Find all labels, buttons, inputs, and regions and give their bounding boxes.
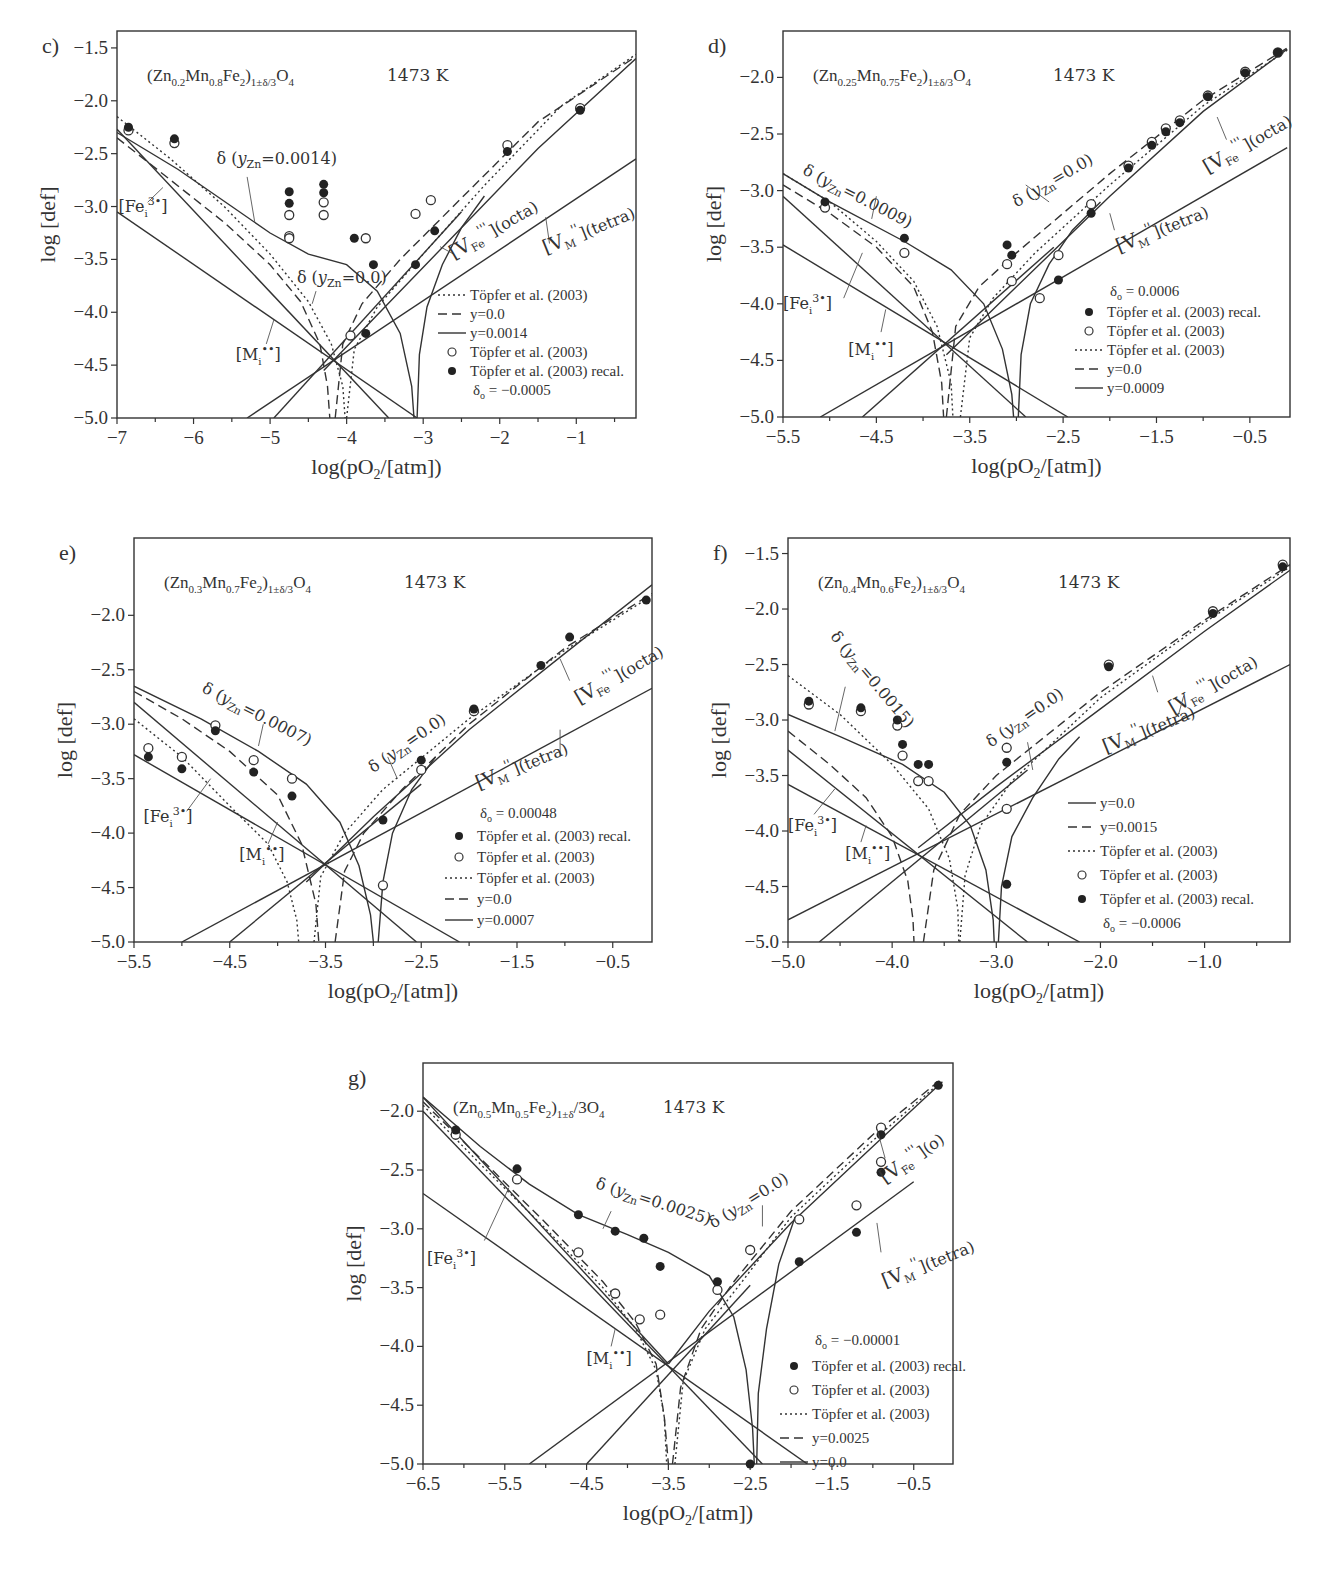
filled-marker (656, 1262, 665, 1271)
y-tick-label: −5.0 (745, 931, 779, 952)
filled-marker (852, 1228, 861, 1237)
x-tick-label: −4 (337, 427, 358, 448)
open-marker (1087, 200, 1096, 209)
legend-label: Töpfer et al. (2003) (1107, 342, 1224, 359)
legend-open-marker (790, 1386, 798, 1394)
y-tick-label: −3.0 (740, 180, 774, 201)
x-axis-title: log(pO2/[atm]) (311, 454, 441, 482)
x-tick-label: −1.5 (500, 951, 534, 972)
filled-marker (934, 1081, 943, 1090)
x-tick-label: −0.5 (897, 1473, 931, 1494)
x-axis-title: log(pO2/[atm]) (623, 1500, 753, 1528)
y-tick-label: −3.0 (380, 1218, 414, 1239)
x-tick-label: −2.5 (733, 1473, 767, 1494)
x-tick-label: −3.0 (979, 951, 1013, 972)
annotation-label: [VFe'''](octa) (569, 638, 668, 711)
y-tick-label: −3.5 (91, 768, 125, 789)
series-line (998, 737, 1079, 942)
legend-label: y=0.0 (812, 1454, 847, 1470)
legend-filled-marker (790, 1362, 798, 1370)
open-marker (285, 210, 294, 219)
y-tick-label: −5.0 (380, 1453, 414, 1474)
annotation-label: [VFe'''](octa) (1198, 107, 1297, 180)
annotation-label: [Fei3•] (783, 292, 832, 316)
x-tick-label: −3.5 (651, 1473, 685, 1494)
legend-label: Töpfer et al. (2003) (477, 870, 594, 887)
figure-canvas: −7−6−5−4−3−2−1−5.0−4.5−4.0−3.5−3.0−2.5−2… (0, 0, 1323, 1575)
annotation-label: δ (yZn=0.0007) (198, 678, 315, 752)
annotation-arrow (484, 1188, 509, 1241)
filled-marker (1002, 758, 1011, 767)
filled-marker (177, 764, 186, 773)
annotation-arrow (814, 789, 835, 815)
temperature-label: 1473 K (404, 572, 466, 592)
x-tick-label: −5.5 (488, 1473, 522, 1494)
filled-marker (1002, 880, 1011, 889)
annotation-label: [VM''](tetra) (1098, 698, 1199, 760)
filled-marker (642, 596, 651, 605)
annotation-label: [Mi••] (587, 1347, 632, 1371)
open-marker (287, 774, 296, 783)
delta0-label: δo = −0.0006 (1103, 915, 1181, 934)
y-tick-label: −4.5 (74, 354, 108, 375)
series-line (324, 59, 636, 371)
legend: Töpfer et al. (2003)y=0.0y=0.0014Töpfer … (438, 287, 624, 401)
open-marker (513, 1175, 522, 1184)
filled-marker (1003, 240, 1012, 249)
chart-panel-f: −5.0−4.0−3.0−2.0−1.0−5.0−4.5−4.0−3.5−3.0… (706, 538, 1290, 1006)
annotation-label: δ (yZn=0.0009) (798, 160, 915, 234)
y-tick-label: −5.0 (91, 931, 125, 952)
chart-panel-e: −5.5−4.5−3.5−2.5−1.5−0.5−5.0−4.5−4.0−3.5… (52, 538, 668, 1006)
filled-marker (144, 752, 153, 761)
y-tick-label: −1.5 (745, 543, 779, 564)
annotation-label: [VM''](tetra) (878, 1232, 979, 1294)
y-tick-label: −4.5 (91, 877, 125, 898)
legend-label: y=0.0 (1107, 361, 1142, 377)
x-tick-label: −2.0 (1083, 951, 1117, 972)
open-marker (611, 1289, 620, 1298)
legend-label: y=0.0009 (1107, 380, 1164, 396)
annotation-label: [Fei3•] (427, 1247, 476, 1271)
annotation-arrow (312, 291, 316, 304)
curves (788, 565, 1290, 942)
x-tick-label: −6.5 (406, 1473, 440, 1494)
legend-label: Töpfer et al. (2003) recal. (812, 1358, 966, 1375)
annotation-arrow (881, 309, 886, 332)
legend-label: y=0.0014 (470, 325, 528, 341)
temperature-label: 1473 K (1053, 65, 1115, 85)
open-marker (914, 777, 923, 786)
series-line (788, 715, 994, 943)
y-tick-label: −5.0 (74, 407, 108, 428)
series-line (378, 757, 435, 942)
annotation-label: δ (yZn=0.0014) (217, 149, 337, 171)
x-tick-label: −3.5 (308, 951, 342, 972)
x-tick-label: −7 (107, 427, 127, 448)
y-tick-label: −4.0 (745, 820, 779, 841)
annotation-label: [Fei3•] (119, 195, 168, 219)
open-marker (319, 210, 328, 219)
legend-label: y=0.0015 (1100, 819, 1157, 835)
x-tick-label: −4.0 (875, 951, 909, 972)
legend-label: Töpfer et al. (2003) (1107, 323, 1224, 340)
filled-marker (211, 726, 220, 735)
x-tick-label: −1.5 (815, 1473, 849, 1494)
open-marker (249, 756, 258, 765)
y-axis-title: log [def] (341, 1225, 366, 1301)
filled-marker (746, 1460, 755, 1469)
delta0-label: δo = −0.0005 (473, 382, 551, 401)
filled-marker (821, 197, 830, 206)
legend-label: Töpfer et al. (2003) recal. (477, 828, 631, 845)
annotation-arrow (247, 177, 255, 222)
compound-formula: (Zn0.2Mn0.8Fe2)1±δ/3O4 (147, 66, 294, 88)
filled-marker (1278, 562, 1287, 571)
filled-marker (565, 633, 574, 642)
x-tick-label: −1.0 (1187, 951, 1221, 972)
annotation-label: [Mi••] (236, 343, 281, 367)
annotation-arrow (877, 1223, 881, 1252)
legend-filled-marker (448, 367, 456, 375)
chart-panel-d: −5.5−4.5−3.5−2.5−1.5−0.5−5.0−4.5−4.0−3.5… (701, 31, 1297, 481)
series-line (423, 1105, 667, 1464)
filled-marker (611, 1227, 620, 1236)
y-tick-label: −5.0 (740, 406, 774, 427)
x-tick-label: −4.5 (569, 1473, 603, 1494)
